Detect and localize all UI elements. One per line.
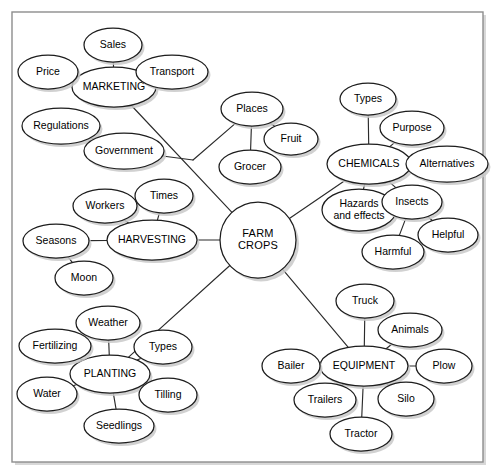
node-label-tilling: Tilling xyxy=(154,388,181,400)
node-label-fertilizing: Fertilizing xyxy=(33,339,78,351)
node-label-tractor: Tractor xyxy=(345,427,378,439)
node-label-helpful: Helpful xyxy=(432,228,465,240)
node-label-plow: Plow xyxy=(433,359,456,371)
node-label-animals: Animals xyxy=(391,323,428,335)
edge-places-to-grocer xyxy=(251,126,252,150)
node-label-seasons: Seasons xyxy=(36,234,77,246)
node-label-fruit: Fruit xyxy=(281,132,302,144)
node-label-workers: Workers xyxy=(86,199,125,211)
node-label-water: Water xyxy=(33,387,61,399)
node-label-silo: Silo xyxy=(397,392,415,404)
node-label-insects: Insects xyxy=(395,195,428,207)
node-label-alternatives: Alternatives xyxy=(420,157,475,169)
node-label-times: Times xyxy=(150,189,178,201)
node-label-grocer: Grocer xyxy=(234,160,267,172)
node-label-chemicals: CHEMICALS xyxy=(338,157,399,169)
node-label-places: Places xyxy=(236,102,268,114)
node-label-purpose: Purpose xyxy=(392,121,431,133)
node-label-marketing: MARKETING xyxy=(83,80,145,92)
node-label-price: Price xyxy=(36,65,60,77)
node-label-trailers: Trailers xyxy=(308,393,343,405)
node-label-truck: Truck xyxy=(352,294,379,306)
node-label-planting: PLANTING xyxy=(84,367,137,379)
node-label-bailer: Bailer xyxy=(278,359,305,371)
node-label-equipment: EQUIPMENT xyxy=(333,359,396,371)
node-label-hazards: Hazards xyxy=(339,197,378,209)
node-label-moon: Moon xyxy=(71,271,97,283)
node-label-sales: Sales xyxy=(100,38,126,50)
node-label-types-plant: Types xyxy=(149,340,177,352)
concept-map-diagram: MARKETINGSalesPriceTransportRegulationsG… xyxy=(0,0,496,475)
node-label-types-chem: Types xyxy=(354,92,382,104)
node-label-hazards: and effects xyxy=(333,209,384,221)
node-label-transport: Transport xyxy=(150,65,195,77)
node-label-farm-crops: FARM xyxy=(242,227,273,239)
node-label-harmful: Harmful xyxy=(375,245,412,257)
node-label-weather: Weather xyxy=(88,316,128,328)
node-label-government: Government xyxy=(95,144,153,156)
node-label-regulations: Regulations xyxy=(33,119,88,131)
node-label-seedlings: Seedlings xyxy=(96,419,142,431)
concept-map-canvas: MARKETINGSalesPriceTransportRegulationsG… xyxy=(0,0,496,475)
node-label-farm-crops: CROPS xyxy=(238,239,278,251)
node-label-harvesting: HARVESTING xyxy=(118,233,186,245)
